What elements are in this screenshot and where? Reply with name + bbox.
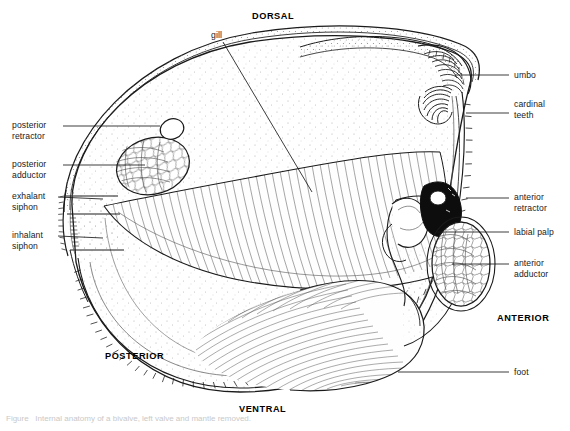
label-line: retractor bbox=[12, 131, 46, 142]
bivalve-anatomy-figure: DORSALVENTRALANTERIORPOSTERIOR posterior… bbox=[0, 0, 570, 431]
label-line: posterior bbox=[12, 159, 46, 170]
label-line: umbo bbox=[514, 70, 536, 81]
label-anterior-adductor: anterioradductor bbox=[514, 258, 548, 280]
label-gill: gill bbox=[211, 30, 222, 41]
anatomy-drawing bbox=[0, 0, 570, 431]
label-line: cardinal bbox=[514, 99, 545, 110]
label-foot: foot bbox=[514, 367, 529, 378]
figure-caption: Figure Internal anatomy of a bivalve, le… bbox=[6, 414, 426, 428]
orientation-dorsal: DORSAL bbox=[252, 11, 294, 22]
label-line: retractor bbox=[514, 203, 547, 214]
label-posterior-adductor: posterioradductor bbox=[12, 159, 46, 181]
label-line: siphon bbox=[12, 202, 45, 213]
label-anterior-retractor: anteriorretractor bbox=[514, 192, 547, 214]
label-labial-palp: labial palp bbox=[514, 227, 554, 238]
label-umbo: umbo bbox=[514, 70, 536, 81]
label-inhalant-siphon: inhalantsiphon bbox=[12, 230, 43, 252]
label-cardinal-teeth: cardinalteeth bbox=[514, 99, 545, 121]
label-line: adductor bbox=[12, 170, 46, 181]
label-line: inhalant bbox=[12, 230, 43, 241]
label-line: siphon bbox=[12, 241, 43, 252]
label-exhalant-siphon: exhalantsiphon bbox=[12, 191, 45, 213]
label-line: anterior bbox=[514, 258, 548, 269]
orientation-posterior: POSTERIOR bbox=[105, 351, 164, 362]
label-line: teeth bbox=[514, 110, 545, 121]
label-line: adductor bbox=[514, 269, 548, 280]
label-line: foot bbox=[514, 367, 529, 378]
label-posterior-retractor: posteriorretractor bbox=[12, 120, 46, 142]
label-line: labial palp bbox=[514, 227, 554, 238]
label-line: gill bbox=[211, 30, 222, 41]
label-line: anterior bbox=[514, 192, 547, 203]
orientation-anterior: ANTERIOR bbox=[497, 313, 549, 324]
label-line: exhalant bbox=[12, 191, 45, 202]
label-line: posterior bbox=[12, 120, 46, 131]
